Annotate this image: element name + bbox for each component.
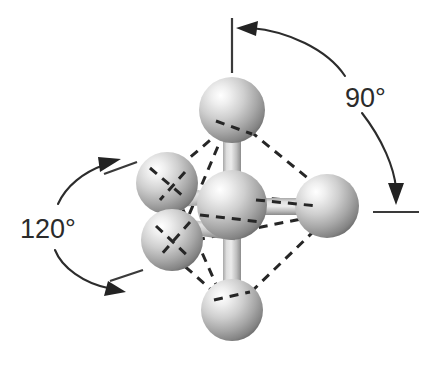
arc-90-upper-arrowhead xyxy=(236,21,258,36)
wire-edge-bottom-right xyxy=(251,231,314,292)
atom-axial-bottom xyxy=(201,279,263,341)
arc-120-upper xyxy=(58,165,104,204)
molecule-diagram: 90° 120° xyxy=(0,0,435,365)
atoms xyxy=(136,77,359,341)
atom-axial-top xyxy=(199,77,265,143)
arc-120-lower-arrowhead xyxy=(104,281,126,296)
wire-edge-top-right xyxy=(250,131,315,184)
lower-equatorial-tick-line xyxy=(110,270,143,281)
molecular-geometry-figure: 90° 120° xyxy=(0,0,435,365)
arc-90-upper xyxy=(251,28,345,76)
arc-90-lower xyxy=(362,113,396,188)
angle-90-label: 90° xyxy=(345,83,386,113)
atom-center xyxy=(197,170,267,240)
angle-120-label: 120° xyxy=(20,214,76,244)
annotation-120-degrees: 120° xyxy=(20,157,143,296)
arc-120-lower xyxy=(55,250,108,288)
arc-90-lower-arrowhead xyxy=(388,183,404,205)
